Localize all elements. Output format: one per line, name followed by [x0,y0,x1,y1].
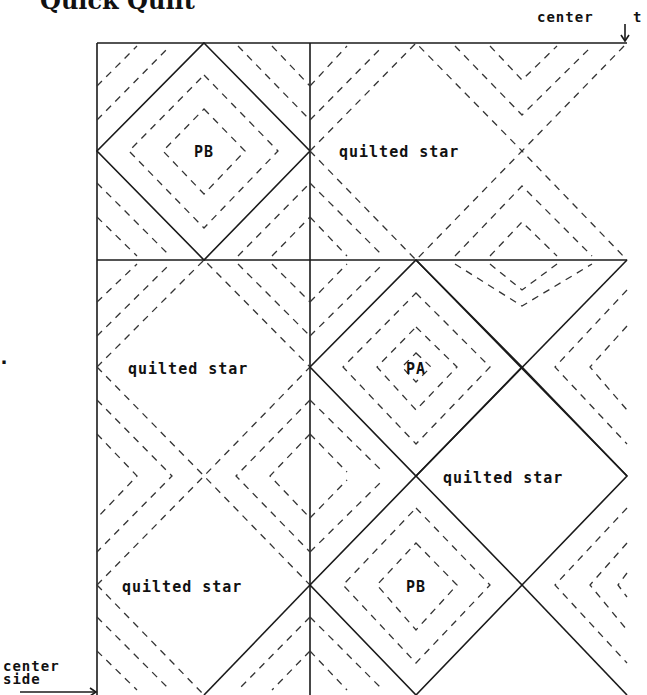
quilted-star-mid-left-block [97,260,310,552]
quilt-diagram [0,0,647,695]
quilted-star-top-label: quilted star [339,143,459,161]
pb-bottom-label: PB [406,578,426,596]
quilted-star-mid-right-label: quilted star [443,469,563,487]
pa-label: PA [406,360,426,378]
center-side-arrow-icon [20,688,96,695]
pb-bottom-block [310,476,627,695]
quilted-star-mid-right-block [416,260,627,585]
pb-top-label: PB [194,143,214,161]
center-top-arrow-icon [621,24,629,41]
quilted-star-mid-left-label: quilted star [128,360,248,378]
quilted-star-bottom-left-label: quilted star [122,578,242,596]
